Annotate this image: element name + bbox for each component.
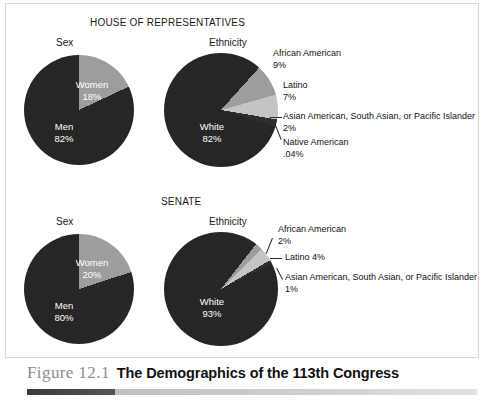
slice-label-house-men-value: 82% [54, 133, 73, 144]
slice-label-senate-white: White 93% [181, 296, 243, 320]
callout-senate-latino: Latino 4% [285, 252, 325, 264]
callout-house-asian: Asian American, South Asian, or Pacific … [283, 111, 475, 134]
callout-senate-asian: Asian American, South Asian, or Pacific … [285, 272, 477, 295]
caption-rule-dark-segment [27, 389, 115, 395]
slice-label-house-men-name: Men [55, 121, 73, 132]
callout-senate-african-american: African American 2% [278, 224, 346, 247]
slice-label-senate-women-name: Women [76, 257, 109, 268]
callout-house-latino-label: Latino [283, 80, 308, 90]
leader-line-house-native [274, 123, 282, 140]
callout-house-native-american: Native American .04% [283, 137, 349, 160]
callout-senate-asian-label: Asian American, South Asian, or Pacific … [285, 272, 477, 282]
callout-house-african-american-value: 9% [273, 60, 341, 72]
leader-line-house-asian [270, 117, 282, 118]
slice-label-senate-men: Men 80% [33, 300, 95, 324]
figure-number: Figure 12.1 [27, 363, 110, 382]
panel-title-house-sex: Sex [56, 37, 73, 48]
slice-label-house-white-value: 82% [202, 133, 221, 144]
callout-house-african-american: African American 9% [273, 48, 341, 71]
leader-line-senate-latino [270, 258, 282, 259]
callout-house-asian-value: 2% [283, 123, 475, 135]
callout-house-native-american-value: .04% [283, 149, 349, 161]
section-heading-senate: SENATE [161, 196, 201, 207]
callout-senate-african-american-label: African American [278, 224, 346, 234]
slice-label-senate-men-name: Men [55, 300, 73, 311]
caption-rule [27, 389, 477, 395]
callout-house-latino: Latino 7% [283, 80, 308, 103]
figure-caption: Figure 12.1The Demographics of the 113th… [0, 363, 493, 416]
callout-house-african-american-label: African American [273, 48, 341, 58]
leader-line-senate-african-american [266, 238, 273, 254]
panel-title-senate-ethnicity: Ethnicity [209, 216, 247, 227]
slice-label-house-white: White 82% [181, 121, 243, 145]
slice-label-senate-men-value: 80% [54, 312, 73, 323]
callout-senate-latino-label: Latino 4% [285, 252, 325, 262]
caption-text-row: Figure 12.1The Demographics of the 113th… [27, 363, 399, 383]
slice-label-house-men: Men 82% [33, 121, 95, 145]
pie-house-ethnicity [164, 53, 278, 167]
pie-house-sex [24, 55, 134, 165]
slice-label-house-white-name: White [200, 121, 224, 132]
callout-house-native-american-label: Native American [283, 137, 349, 147]
figure-title: The Demographics of the 113th Congress [117, 365, 399, 381]
caption-rule-light-segment [115, 389, 477, 395]
pie-senate-sex [24, 234, 134, 344]
slice-label-house-women-name: Women [76, 79, 109, 90]
slice-label-senate-white-value: 93% [202, 308, 221, 319]
callout-house-asian-label: Asian American, South Asian, or Pacific … [283, 111, 475, 121]
chart-frame: HOUSE OF REPRESENTATIVES Sex Ethnicity W… [5, 3, 479, 358]
slice-label-house-women-value: 18% [82, 91, 101, 102]
panel-title-house-ethnicity: Ethnicity [209, 37, 247, 48]
slice-label-house-women: Women 18% [61, 79, 123, 103]
callout-senate-asian-value: 1% [285, 284, 477, 296]
section-heading-house: HOUSE OF REPRESENTATIVES [90, 17, 245, 28]
slice-label-senate-women: Women 20% [61, 257, 123, 281]
pie-senate-ethnicity [164, 232, 278, 346]
callout-senate-african-american-value: 2% [278, 236, 346, 248]
slice-label-senate-women-value: 20% [82, 269, 101, 280]
panel-title-senate-sex: Sex [56, 216, 73, 227]
figure-container: HOUSE OF REPRESENTATIVES Sex Ethnicity W… [0, 0, 493, 416]
callout-house-latino-value: 7% [283, 92, 308, 104]
slice-label-senate-white-name: White [200, 296, 224, 307]
